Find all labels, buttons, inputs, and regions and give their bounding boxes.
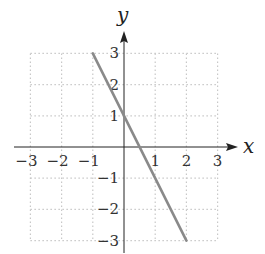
y-tick-label: 1 bbox=[109, 107, 119, 125]
x-tick-label: 2 bbox=[182, 152, 192, 170]
coordinate-plane: −3−2−1123−3−2−1123 x y bbox=[0, 0, 265, 254]
x-tick-label: −1 bbox=[78, 152, 100, 170]
y-axis-label: y bbox=[116, 3, 129, 27]
y-tick-label: −1 bbox=[97, 169, 119, 187]
axes bbox=[14, 31, 238, 253]
y-tick-label: 3 bbox=[109, 44, 119, 62]
y-tick-label: −3 bbox=[97, 232, 119, 250]
x-tick-label: −3 bbox=[15, 152, 37, 170]
x-tick-label: −2 bbox=[47, 152, 69, 170]
y-tick-label: −2 bbox=[97, 200, 119, 218]
x-tick-label: 1 bbox=[150, 152, 160, 170]
x-axis-label: x bbox=[243, 134, 254, 158]
x-tick-label: 3 bbox=[213, 152, 223, 170]
